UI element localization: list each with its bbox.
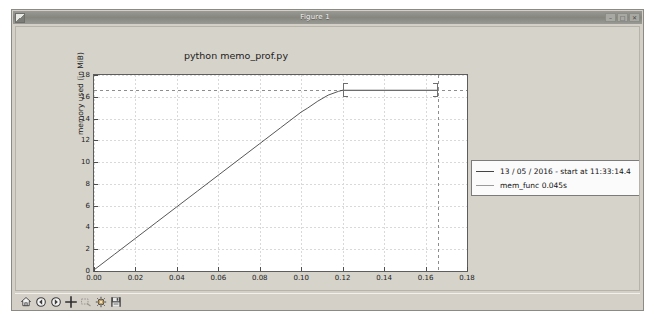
legend-swatch-line-icon	[476, 171, 494, 172]
x-tick-label: 0.12	[335, 274, 351, 282]
plot-axes[interactable]: memory used (in MiB) time (in seconds) 0…	[93, 74, 468, 272]
mem-func-bracket	[343, 83, 438, 97]
x-tick-mark	[343, 267, 344, 271]
bracket-bar	[343, 90, 438, 91]
y-tick-mark	[94, 249, 98, 250]
y-tick-label: 16	[81, 93, 90, 101]
back-arrow-icon[interactable]	[34, 295, 48, 309]
plot-area	[94, 75, 467, 271]
x-tick-label: 0.18	[459, 274, 475, 282]
y-tick-label: 6	[86, 202, 90, 210]
legend-item-run-timestamp: 13 / 05 / 2016 - start at 11:33:14.4	[476, 164, 640, 178]
figure-canvas[interactable]: python memo_prof.py memory used (in MiB)…	[15, 26, 640, 291]
x-tick-mark	[260, 267, 261, 271]
y-tick-mark	[94, 75, 98, 76]
x-tick-mark	[384, 267, 385, 271]
x-tick-label: 0.04	[169, 274, 185, 282]
y-tick-label: 4	[86, 223, 90, 231]
chart-legend[interactable]: 13 / 05 / 2016 - start at 11:33:14.4 mem…	[471, 160, 640, 196]
x-tick-label: 0.14	[376, 274, 392, 282]
y-tick-label: 10	[81, 158, 90, 166]
x-tick-label: 0.16	[418, 274, 434, 282]
series-layer	[94, 75, 467, 271]
y-tick-label: 12	[81, 136, 90, 144]
x-tick-mark	[135, 267, 136, 271]
y-tick-mark	[94, 162, 98, 163]
minimize-button[interactable]: –	[605, 13, 616, 22]
window-title: Figure 1	[25, 11, 605, 24]
bracket-cap-left	[343, 83, 344, 97]
y-tick-mark	[94, 184, 98, 185]
window-titlebar[interactable]: Figure 1 – □ ✕	[13, 11, 642, 24]
zoom-rect-icon[interactable]	[79, 295, 93, 309]
bracket-tip-br	[433, 96, 438, 97]
y-tick-label: 8	[86, 180, 90, 188]
x-tick-mark	[467, 267, 468, 271]
maximize-button[interactable]: □	[617, 13, 628, 22]
configure-subplots-icon[interactable]	[94, 295, 108, 309]
x-tick-mark	[426, 267, 427, 271]
legend-swatch-bracket-icon	[476, 185, 494, 186]
x-tick-label: 0.02	[128, 274, 144, 282]
y-tick-label: 18	[81, 71, 90, 79]
app-icon	[15, 13, 25, 23]
navigation-toolbar	[15, 293, 640, 309]
bracket-tip-tl	[343, 83, 348, 84]
bracket-tip-tr	[433, 83, 438, 84]
desktop-background: Figure 1 – □ ✕ python memo_prof.py memor…	[0, 0, 655, 322]
bracket-tip-bl	[343, 96, 348, 97]
figure-window: Figure 1 – □ ✕ python memo_prof.py memor…	[11, 9, 644, 311]
x-tick-mark	[177, 267, 178, 271]
x-tick-label: 0.10	[293, 274, 309, 282]
x-axis-label: time (in seconds)	[94, 289, 469, 291]
bracket-cap-right	[437, 83, 438, 97]
x-tick-label: 0.00	[86, 274, 102, 282]
x-tick-mark	[218, 267, 219, 271]
x-tick-mark	[94, 267, 95, 271]
y-tick-mark	[94, 119, 98, 120]
y-tick-mark	[94, 206, 98, 207]
close-button[interactable]: ✕	[629, 13, 640, 22]
legend-label-mem-func: mem_func 0.045s	[500, 181, 567, 190]
x-tick-mark	[301, 267, 302, 271]
pan-icon[interactable]	[64, 295, 78, 309]
y-tick-mark	[94, 97, 98, 98]
legend-label-run-timestamp: 13 / 05 / 2016 - start at 11:33:14.4	[500, 167, 631, 176]
forward-arrow-icon[interactable]	[49, 295, 63, 309]
x-tick-label: 0.06	[211, 274, 227, 282]
y-tick-label: 14	[81, 115, 90, 123]
save-icon[interactable]	[109, 295, 123, 309]
y-tick-mark	[94, 271, 98, 272]
y-tick-mark	[94, 140, 98, 141]
y-tick-mark	[94, 227, 98, 228]
x-tick-label: 0.08	[252, 274, 268, 282]
y-tick-label: 2	[86, 245, 90, 253]
home-icon[interactable]	[19, 295, 33, 309]
window-controls: – □ ✕	[605, 13, 640, 22]
data-line	[94, 90, 438, 270]
legend-item-mem-func: mem_func 0.045s	[476, 178, 640, 192]
